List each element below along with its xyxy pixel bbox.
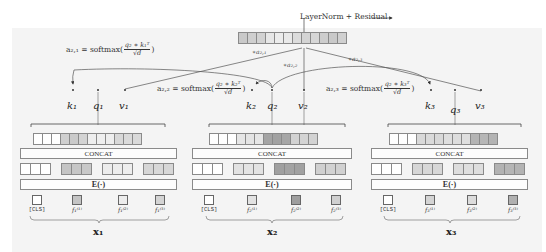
vector-cell: [473, 163, 484, 175]
cls-token-square: [383, 195, 393, 205]
formula-a21: a₂,₁ = softmax( q₂ ∗ k₁ᵀ√d ): [66, 42, 154, 57]
group-output-vector: [209, 133, 317, 145]
vector-cell: [391, 163, 402, 175]
formula-denominator: √d: [133, 50, 141, 57]
embedding-group: [315, 163, 345, 175]
value-v2: v₂: [298, 100, 308, 111]
formula-lhs: a₂,₁ = softmax(: [66, 45, 123, 54]
feature-token-label: f₁⁽¹⁾: [62, 206, 92, 213]
group-output-vector: [33, 133, 141, 145]
value-v3: v₃: [475, 100, 485, 111]
vector-cell: [514, 163, 525, 175]
feature-token-square: [247, 195, 257, 205]
embedding-group: [102, 163, 132, 175]
embedding-cells: [371, 163, 524, 175]
embedding-function-bar: E(·): [192, 179, 352, 190]
query-q2: q₂: [267, 100, 277, 111]
layernorm-residual-label: LayerNorm + Residual: [300, 12, 387, 21]
formula-denominator: √d: [224, 89, 232, 96]
weight-a23-label: ∗a₂,₃: [348, 55, 362, 62]
feature-token-square: [467, 195, 477, 205]
vector-cell: [81, 163, 92, 175]
formula-a23: a₂,₃ = softmax( q₂ ∗ k₃ᵀ√d ): [326, 81, 414, 96]
feature-token-square: [291, 195, 301, 205]
vector-cell: [488, 133, 498, 145]
embedding-group: [20, 163, 50, 175]
weight-a21-label: ∗a₂,₁: [252, 48, 266, 55]
embedding-group: [274, 163, 304, 175]
feature-token-square: [331, 195, 341, 205]
formula-lhs: a₂,₃ = softmax(: [326, 84, 383, 93]
embedding-group: [61, 163, 91, 175]
cls-token-square: [204, 195, 214, 205]
embedding-group: [233, 163, 263, 175]
query-q1: q₁: [93, 100, 103, 111]
embedding-group: [494, 163, 524, 175]
vector-cell: [335, 163, 346, 175]
key-k3: k₃: [425, 100, 435, 111]
vector-cell: [40, 163, 51, 175]
input-x3-label: x₃: [446, 226, 456, 237]
vector-cell: [163, 163, 174, 175]
feature-token-square: [118, 195, 128, 205]
formula-lhs: a₂,₂ = softmax(: [157, 84, 214, 93]
cls-token-label: [CLS]: [373, 206, 403, 213]
input-x1-label: x₁: [93, 226, 103, 237]
aggregated-output-vector: [238, 32, 346, 44]
key-k2: k₂: [246, 100, 256, 111]
vector-cell: [212, 163, 223, 175]
formula-rhs: ): [242, 84, 245, 93]
cls-token-label: [CLS]: [194, 206, 224, 213]
embedding-group: [371, 163, 401, 175]
concat-bar: CONCAT: [371, 148, 528, 159]
group-output-vector: [389, 133, 497, 145]
vector-cell: [337, 32, 347, 44]
formula-a22: a₂,₂ = softmax( q₂ ∗ k₂ᵀ√d ): [157, 81, 245, 96]
cls-token-label: [CLS]: [22, 206, 52, 213]
formula-rhs: ): [411, 84, 414, 93]
vector-cell: [253, 163, 264, 175]
key-k1: k₁: [67, 100, 77, 111]
feature-token-square: [72, 195, 82, 205]
embedding-function-bar: E(·): [371, 179, 528, 190]
vector-cell: [308, 133, 318, 145]
embedding-group: [143, 163, 173, 175]
vector-cell: [432, 163, 443, 175]
concat-bar: CONCAT: [20, 148, 177, 159]
feature-token-label: f₃⁽²⁾: [457, 206, 487, 213]
embedding-group: [453, 163, 483, 175]
formula-denominator: √d: [393, 89, 401, 96]
value-v1: v₁: [119, 100, 129, 111]
feature-token-label: f₁⁽³⁾: [145, 206, 175, 213]
vector-cell: [132, 133, 142, 145]
formula-rhs: ): [151, 45, 154, 54]
feature-token-label: f₃⁽³⁾: [498, 206, 528, 213]
feature-token-label: f₁⁽²⁾: [108, 206, 138, 213]
cls-token-square: [32, 195, 42, 205]
vector-cell: [294, 163, 305, 175]
feature-token-label: f₂⁽¹⁾: [237, 206, 267, 213]
feature-token-label: f₃⁽¹⁾: [415, 206, 445, 213]
embedding-cells: [20, 163, 173, 175]
weight-a22-label: ∗a₂,₂: [283, 61, 297, 68]
embedding-group: [412, 163, 442, 175]
feature-token-square: [155, 195, 165, 205]
feature-token-square: [425, 195, 435, 205]
concat-bar: CONCAT: [192, 148, 352, 159]
feature-token-square: [508, 195, 518, 205]
vector-cell: [122, 163, 133, 175]
embedding-function-bar: E(·): [20, 179, 177, 190]
feature-token-label: f₂⁽²⁾: [281, 206, 311, 213]
embedding-group: [192, 163, 222, 175]
input-x2-label: x₂: [267, 226, 277, 237]
query-q3: q₃: [450, 104, 460, 115]
feature-token-label: f₂⁽³⁾: [321, 206, 351, 213]
embedding-cells: [192, 163, 345, 175]
